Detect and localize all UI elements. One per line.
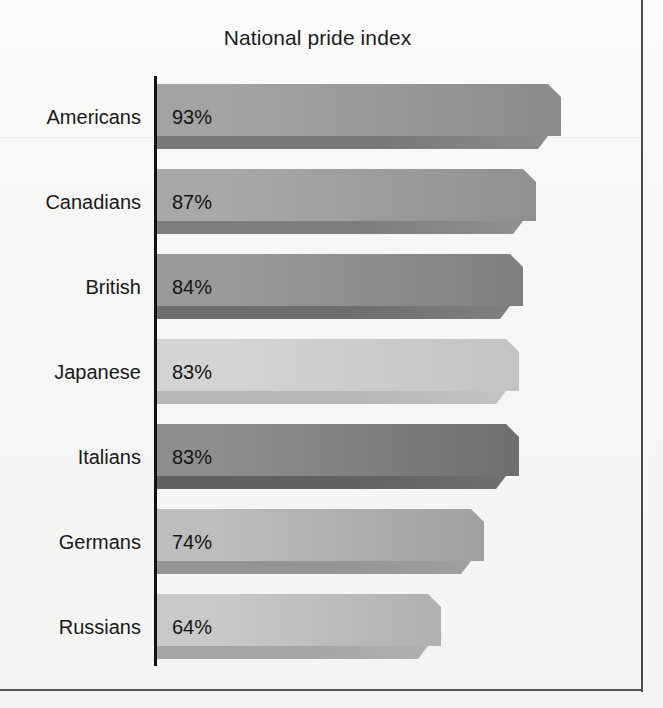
bar-value-label: 93% <box>172 106 212 129</box>
bar-value-label: 83% <box>172 361 212 384</box>
bar-row: Italians83% <box>0 416 663 501</box>
bar-bottom-edge <box>157 476 506 489</box>
bar-bottom-edge <box>157 646 428 659</box>
bar-category-label: British <box>0 276 141 299</box>
bar-bottom-edge <box>157 391 506 404</box>
bar <box>157 169 536 234</box>
bar-row: Germans74% <box>0 501 663 586</box>
chart-title: National pride index <box>155 26 480 50</box>
bar-row: Canadians87% <box>0 161 663 246</box>
bar-value-label: 64% <box>172 616 212 639</box>
page-frame-bottom-rule <box>0 689 643 691</box>
bar-row: British84% <box>0 246 663 331</box>
bar-bottom-edge <box>157 561 471 574</box>
bar-row: Americans93% <box>0 76 663 161</box>
bar-category-label: Americans <box>0 106 141 129</box>
bar-value-label: 87% <box>172 191 212 214</box>
bar-face <box>157 169 536 221</box>
bar-row: Russians64% <box>0 586 663 671</box>
bar-bottom-edge <box>157 136 548 149</box>
bar-value-label: 84% <box>172 276 212 299</box>
bar-bottom-edge <box>157 221 523 234</box>
bar <box>157 84 561 149</box>
bar-category-label: Russians <box>0 616 141 639</box>
bar-category-label: Canadians <box>0 191 141 214</box>
bar-category-label: Japanese <box>0 361 141 384</box>
bar-category-label: Germans <box>0 531 141 554</box>
chart-page: National pride index Americans93%Canadia… <box>0 0 663 708</box>
bar-value-label: 74% <box>172 531 212 554</box>
bar-row: Japanese83% <box>0 331 663 416</box>
bar-bottom-edge <box>157 306 510 319</box>
bar-value-label: 83% <box>172 446 212 469</box>
bar-face <box>157 84 561 136</box>
bar-category-label: Italians <box>0 446 141 469</box>
